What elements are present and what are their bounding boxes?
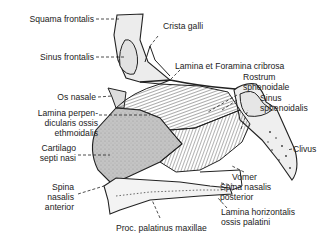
label-spina-ant-3: anterior <box>0 202 74 212</box>
label-lamina-perp-2: dicularis ossis <box>0 118 98 128</box>
label-os-nasale: Os nasale <box>18 92 96 102</box>
label-vomer: Vomer <box>232 172 257 182</box>
label-lamina-perp-3: ethmoidalis <box>0 128 98 138</box>
label-rostrum-1: Rostrum <box>243 72 275 82</box>
label-spina-ant-1: Spina <box>0 182 74 192</box>
label-cartilago-1: Cartilago <box>0 143 76 153</box>
label-sinus-frontalis: Sinus frontalis <box>18 52 94 62</box>
label-lamina-perp-1: Lamina perpen- <box>0 108 98 118</box>
label-spina-post-2: posterior <box>220 192 253 202</box>
label-lamina-horiz-2: ossis palatini <box>221 217 270 227</box>
label-sinus-sphen-1: Sinus <box>260 93 282 103</box>
label-proc-palatinus: Proc. palatinus maxillae <box>116 223 207 233</box>
label-cartilago-2: septi nasi <box>0 153 76 163</box>
label-crista-galli: Crista galli <box>163 21 203 31</box>
nasal-septum-diagram: Squama frontalis Crista galli Sinus fron… <box>0 0 323 239</box>
label-rostrum-2: sphenoidale <box>243 82 289 92</box>
label-squama-frontalis: Squama frontalis <box>18 14 94 24</box>
label-spina-ant-2: nasalis <box>0 192 74 202</box>
label-lamina-horiz-1: Lamina horizontalis <box>221 207 295 217</box>
frontal-bone <box>114 14 170 84</box>
label-clivus: Clivus <box>293 144 316 154</box>
label-lamina-cribrosa: Lamina et Foramina cribrosa <box>175 61 284 71</box>
label-spina-post-1: Spina nasalis <box>220 182 271 192</box>
label-sinus-sphen-2: sphenoidalis <box>260 103 308 113</box>
